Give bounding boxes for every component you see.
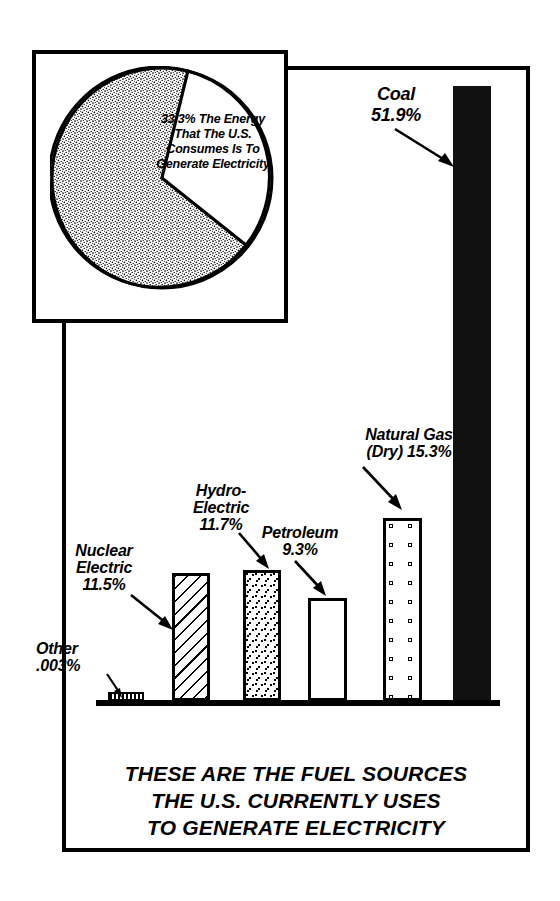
bar-chart-baseline — [96, 700, 500, 706]
callout-natural-gas: Natural Gas (Dry) 15.3% — [334, 426, 484, 460]
caption-line-3: TO GENERATE ELECTRICITY — [70, 814, 522, 841]
arrow-to-hydro-electric-bar — [236, 530, 280, 576]
bar-hydro-electric — [243, 570, 281, 701]
arrow-to-natural-gas-bar — [360, 464, 412, 516]
pie-chart — [50, 66, 274, 290]
bar-coal — [453, 86, 491, 701]
bar-petroleum — [308, 598, 347, 701]
arrow-to-coal-bar — [392, 126, 462, 172]
pie-chart-svg — [50, 66, 274, 290]
arrow-to-nuclear-electric-bar — [128, 592, 180, 638]
callout-coal: Coal 51.9% — [336, 84, 456, 126]
pie-slice-label: 33.3% The Energy That The U.S. Consumes … — [154, 112, 272, 172]
arrow-to-other-bar — [104, 672, 132, 702]
callout-other: Other .003% — [36, 640, 132, 674]
bar-natural-gas — [383, 518, 422, 701]
energy-consumption-pie-panel: 33.3% The Energy That The U.S. Consumes … — [32, 50, 288, 323]
caption-line-2: THE U.S. CURRENTLY USES — [70, 787, 522, 814]
caption-line-1: THESE ARE THE FUEL SOURCES — [70, 760, 522, 787]
arrow-to-petroleum-bar — [292, 558, 336, 602]
callout-hydro-electric: Hydro- Electric 11.7% — [166, 482, 276, 533]
callout-nuclear-electric: Nuclear Electric 11.5% — [48, 542, 160, 593]
chart-caption: THESE ARE THE FUEL SOURCES THE U.S. CURR… — [70, 760, 522, 841]
infographic-canvas: Coal 51.9% Natural Gas (Dry) 15.3% Petro… — [0, 0, 560, 901]
